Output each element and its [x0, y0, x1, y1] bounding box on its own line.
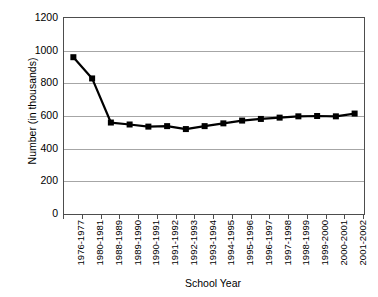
- data-point-marker: [89, 75, 95, 81]
- x-axis-tick-label-slot: 1988-1989: [103, 220, 117, 272]
- x-axis-tick-label-slot: 1989-1990: [122, 220, 136, 272]
- data-series: [64, 18, 364, 214]
- y-axis-tick-label: 0: [26, 208, 58, 218]
- x-axis-tick: [269, 214, 270, 219]
- x-axis-tick-label-slot: 2001-2002: [347, 220, 361, 272]
- x-axis-tick: [194, 214, 195, 219]
- data-point-marker: [127, 121, 133, 127]
- y-axis-tick-label: 200: [26, 175, 58, 185]
- x-axis-tick: [344, 214, 345, 219]
- x-axis-tick-label: 2001-2002: [358, 220, 368, 265]
- x-axis-tick: [363, 214, 364, 219]
- y-axis-tick-label: 1200: [26, 12, 58, 22]
- x-axis-tick: [213, 214, 214, 219]
- x-axis-tick: [63, 214, 64, 219]
- x-axis-tick-label-slot: 1998-1999: [290, 220, 304, 272]
- x-axis-title: School Year: [63, 277, 363, 289]
- data-point-marker: [314, 113, 320, 119]
- x-axis-tick-label-slot: 1995-1996: [234, 220, 248, 272]
- x-axis-tick: [119, 214, 120, 219]
- x-axis-tick-label-slot: 1976-1977: [65, 220, 79, 272]
- plot-area: [63, 17, 365, 215]
- data-point-marker: [258, 116, 264, 122]
- x-axis-tick: [138, 214, 139, 219]
- data-point-marker: [145, 124, 151, 130]
- x-axis-tick-label-slot: 1999-2000: [309, 220, 323, 272]
- x-axis-tick-label-slot: 1992-1993: [178, 220, 192, 272]
- y-axis-tick-label: 1000: [26, 45, 58, 55]
- y-axis-tick-label: 800: [26, 77, 58, 87]
- data-point-marker: [333, 113, 339, 119]
- x-axis-tick: [82, 214, 83, 219]
- x-axis-ticks: [63, 214, 365, 219]
- x-axis-tick-label-slot: 1990-1991: [140, 220, 154, 272]
- x-axis-tick-label-slot: 1980-1981: [84, 220, 98, 272]
- x-axis-tick-labels: 1976-19771980-19811988-19891989-19901990…: [63, 220, 365, 272]
- data-point-marker: [277, 115, 283, 121]
- x-axis-tick-label-slot: 1997-1998: [272, 220, 286, 272]
- data-point-marker: [220, 120, 226, 126]
- x-axis-tick: [326, 214, 327, 219]
- y-axis-tick-labels: 120010008006004002000: [26, 17, 58, 213]
- x-axis-tick: [251, 214, 252, 219]
- line-chart: Number (in thousands) 120010008006004002…: [0, 0, 378, 297]
- data-point-marker: [295, 113, 301, 119]
- data-point-marker: [70, 54, 76, 60]
- x-axis-tick: [307, 214, 308, 219]
- x-axis-tick-label-slot: 1991-1992: [159, 220, 173, 272]
- x-axis-tick: [101, 214, 102, 219]
- data-point-marker: [202, 123, 208, 129]
- x-axis-tick-label-slot: 1994-1995: [215, 220, 229, 272]
- data-point-marker: [352, 111, 358, 117]
- y-axis-tick-label: 400: [26, 143, 58, 153]
- series-line: [73, 57, 354, 129]
- data-point-marker: [108, 120, 114, 126]
- x-axis-tick-label-slot: 1993-1994: [197, 220, 211, 272]
- x-axis-tick-label-slot: 1996-1997: [253, 220, 267, 272]
- x-axis-tick: [157, 214, 158, 219]
- data-point-marker: [164, 123, 170, 129]
- x-axis-tick: [288, 214, 289, 219]
- data-point-marker: [239, 118, 245, 124]
- x-axis-tick: [232, 214, 233, 219]
- x-axis-tick: [176, 214, 177, 219]
- data-point-marker: [183, 126, 189, 132]
- y-axis-tick-label: 600: [26, 110, 58, 120]
- x-axis-tick-label-slot: 2000-2001: [328, 220, 342, 272]
